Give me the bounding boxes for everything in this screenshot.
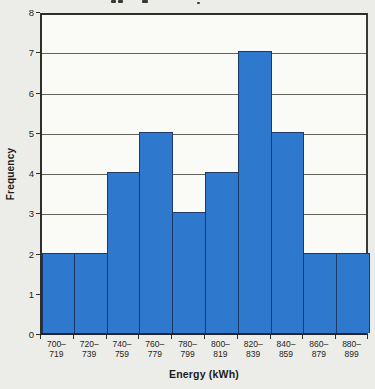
y-tick-label-3: 3 [18,208,34,219]
x-tick-6 [237,335,238,339]
bar-880–899 [336,253,370,334]
x-tick-label-820–839: 820– 839 [237,340,270,359]
x-tick-label-760–779: 760– 779 [138,340,171,359]
x-tick-10 [367,335,368,339]
bar-860–879 [303,253,337,334]
bar-700–719 [42,253,75,334]
x-tick-label-800–819: 800– 819 [204,340,237,359]
plot-area [40,13,368,335]
y-tick-label-4: 4 [18,168,34,179]
y-tick-2 [36,254,40,255]
cropped-title-fragment [197,2,200,4]
bars-group [42,15,366,333]
histogram-chart: Frequency 012345678 700– 719720– 739740–… [0,0,375,389]
y-tick-label-5: 5 [18,128,34,139]
bar-800–819 [205,172,239,333]
y-tick-label-0: 0 [18,329,34,340]
y-tick-4 [36,173,40,174]
bar-760–779 [139,132,173,333]
x-tick-9 [335,335,336,339]
x-tick-7 [270,335,271,339]
x-tick-4 [171,335,172,339]
x-tick-label-860–879: 860– 879 [302,340,335,359]
x-tick-label-880–899: 880– 899 [335,340,368,359]
x-tick-2 [106,335,107,339]
y-tick-3 [36,213,40,214]
bar-840–859 [271,132,305,333]
y-tick-label-8: 8 [18,7,34,18]
y-tick-8 [36,12,40,13]
y-tick-7 [36,52,40,53]
y-tick-label-6: 6 [18,88,34,99]
x-tick-1 [73,335,74,339]
cropped-title-fragment [111,0,116,3]
y-axis-title: Frequency [5,148,16,200]
y-tick-1 [36,294,40,295]
bar-820–839 [238,51,272,333]
y-tick-6 [36,93,40,94]
x-tick-label-700–719: 700– 719 [40,340,73,359]
bar-720–739 [74,253,108,334]
x-tick-5 [204,335,205,339]
y-tick-label-7: 7 [18,47,34,58]
cropped-title-fragment [142,0,148,3]
x-axis-title: Energy (kWh) [40,368,368,380]
x-tick-label-840–859: 840– 859 [270,340,303,359]
y-tick-5 [36,133,40,134]
x-tick-label-720–739: 720– 739 [73,340,106,359]
x-tick-8 [302,335,303,339]
x-tick-0 [40,335,41,339]
y-tick-label-1: 1 [18,289,34,300]
bar-740–759 [107,172,141,333]
x-tick-label-780–799: 780– 799 [171,340,204,359]
x-tick-label-740–759: 740– 759 [106,340,139,359]
bar-780–799 [172,212,206,333]
x-tick-3 [138,335,139,339]
y-tick-label-2: 2 [18,249,34,260]
cropped-title-fragment [118,0,123,3]
